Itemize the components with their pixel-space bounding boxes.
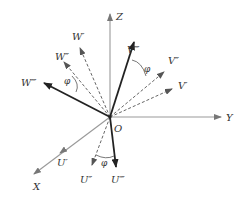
axis-y-label: Y bbox=[226, 112, 234, 123]
vector-v1-label: V′ bbox=[178, 80, 188, 91]
diagram-canvas: ZYX U′U″U‴W′W″W‴V′V″V‴ φφφ O bbox=[0, 0, 243, 200]
angle-phi-label: φ bbox=[64, 76, 71, 86]
angles-group: φφφ bbox=[64, 60, 151, 168]
rotation-diagram: ZYX U′U″U‴W′W″W‴V′V″V‴ φφφ O bbox=[0, 0, 243, 200]
origin-label: O bbox=[114, 123, 122, 134]
vector-v3-label: V‴ bbox=[127, 44, 140, 55]
vector-w1 bbox=[80, 48, 110, 117]
vector-u2-label: U″ bbox=[80, 174, 92, 185]
vector-w3-label: W‴ bbox=[21, 77, 37, 88]
angle-phi-label: φ bbox=[144, 64, 151, 74]
vector-v2-label: V″ bbox=[168, 55, 179, 66]
vector-w2 bbox=[64, 62, 110, 117]
axis-x bbox=[34, 117, 110, 174]
vector-w2-label: W″ bbox=[55, 51, 69, 62]
axis-z-label: Z bbox=[115, 11, 124, 22]
angle-arc bbox=[72, 76, 77, 92]
axis-x-label: X bbox=[32, 181, 41, 192]
origin-point bbox=[108, 115, 111, 118]
vector-u3-label: U‴ bbox=[111, 174, 125, 185]
angle-phi-label: φ bbox=[101, 158, 108, 168]
vector-w1-label: W′ bbox=[72, 31, 85, 42]
vector-u1-label: U′ bbox=[57, 157, 68, 168]
vector-v1 bbox=[110, 89, 172, 117]
